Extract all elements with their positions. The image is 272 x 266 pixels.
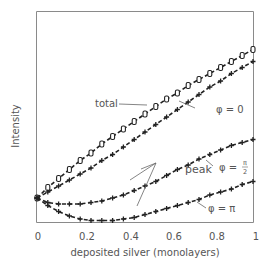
data-point-marker	[89, 150, 93, 156]
data-point-marker	[78, 202, 83, 207]
data-point-marker	[175, 203, 180, 208]
x-tick-0.2: 0.2	[79, 231, 95, 242]
data-point-marker	[240, 140, 245, 145]
data-point-marker	[218, 148, 223, 153]
data-point-marker	[89, 200, 94, 205]
data-point-marker	[251, 59, 256, 64]
data-point-marker	[207, 193, 212, 198]
annotation-phi-pi: φ = π	[208, 203, 235, 214]
data-point-marker	[143, 212, 148, 217]
data-point-marker	[57, 176, 61, 182]
annotation-phi-half-num: π	[243, 159, 247, 167]
annotation-phi0: φ = 0	[216, 104, 244, 115]
data-point-marker	[208, 71, 212, 77]
data-point-marker	[78, 158, 82, 164]
data-point-marker	[219, 65, 223, 71]
data-point-marker	[197, 197, 202, 202]
data-point-marker	[218, 190, 223, 195]
annotation-phi-half: φ = π 2	[219, 159, 248, 176]
y-axis-label: Intensity	[10, 104, 21, 148]
annotation-total: total	[95, 98, 118, 109]
data-point-marker	[121, 126, 125, 132]
data-point-marker	[143, 111, 147, 117]
x-tick-0.6: 0.6	[166, 231, 182, 242]
data-point-marker	[165, 96, 169, 102]
data-point-marker	[251, 179, 256, 184]
data-point-marker	[229, 143, 234, 148]
annotation-peak: peak	[185, 163, 212, 176]
data-point-marker	[100, 141, 104, 147]
data-point-marker	[153, 209, 158, 214]
total-leader	[119, 104, 147, 105]
data-point-marker	[67, 214, 72, 219]
data-point-marker	[67, 202, 72, 207]
annotation-phi-half-den: 2	[243, 168, 247, 176]
data-point-marker	[229, 187, 234, 192]
data-point-marker	[121, 217, 126, 222]
data-point-marker	[132, 188, 137, 193]
x-tick-labels: 0 0.2 0.4 0.6 0.8 1	[35, 231, 259, 242]
series-line	[37, 50, 253, 199]
data-point-marker	[132, 119, 136, 125]
x-tick-0: 0	[35, 231, 41, 242]
data-point-marker	[207, 152, 212, 157]
data-point-marker	[251, 47, 255, 53]
data-point-marker	[99, 199, 104, 204]
data-point-marker	[175, 90, 179, 96]
data-point-marker	[110, 196, 115, 201]
data-point-marker	[251, 137, 256, 142]
data-point-marker	[186, 200, 191, 205]
series-peak-0	[35, 59, 256, 201]
annotation-phi-half-prefix: φ =	[219, 162, 237, 173]
data-point-marker	[240, 182, 245, 187]
data-point-marker	[240, 53, 244, 59]
data-point-marker	[78, 217, 83, 222]
data-point-marker	[197, 77, 201, 83]
x-tick-0.8: 0.8	[209, 231, 225, 242]
data-point-marker	[186, 83, 190, 89]
phi-pi-leader	[197, 202, 206, 208]
data-point-marker	[56, 202, 61, 207]
x-tick-1: 1	[253, 231, 259, 242]
data-point-marker	[229, 59, 233, 65]
data-point-marker	[67, 167, 71, 173]
x-axis-label: deposited silver (monolayers)	[70, 247, 219, 258]
data-point-marker	[121, 193, 126, 198]
data-point-marker	[154, 104, 158, 110]
x-tick-0.4: 0.4	[123, 231, 139, 242]
series-layer	[35, 47, 256, 224]
data-point-marker	[132, 215, 137, 220]
chart: total φ = 0 peak φ = π 2 φ = π 0 0.2 0.4…	[0, 0, 272, 266]
series-total	[35, 47, 255, 202]
data-point-marker	[111, 134, 115, 140]
data-point-marker	[164, 206, 169, 211]
